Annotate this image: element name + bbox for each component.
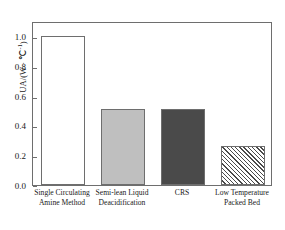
x-tick-label-line2: Deacidification <box>86 198 158 208</box>
y-tick-label: 0.8 <box>15 62 26 72</box>
y-tick-mark <box>33 127 37 128</box>
x-tick-label-line1: CRS <box>175 188 189 197</box>
y-tick-label: 1.0 <box>15 32 26 42</box>
x-tick-label: Low TemperaturePacked Bed <box>206 188 278 207</box>
x-tick-label-line1: Low Temperature <box>215 188 269 197</box>
bar-chart-figure: UA/(W · ℃-1) 0.00.20.40.60.81.0 Single C… <box>0 0 285 230</box>
bar-series <box>33 23 271 185</box>
y-tick-label: 0.0 <box>15 181 26 191</box>
x-axis-tick-labels: Single CirculatingAmine MethodSemi-lean … <box>32 188 272 228</box>
y-tick-label: 0.4 <box>15 121 26 131</box>
x-tick-label-line2: Packed Bed <box>206 198 278 208</box>
bar <box>101 109 145 185</box>
y-axis-tick-labels: 0.00.20.40.60.81.0 <box>0 22 30 186</box>
bar <box>161 109 205 185</box>
y-tick-mark <box>33 38 37 39</box>
y-tick-label: 0.2 <box>15 151 26 161</box>
y-tick-mark <box>33 98 37 99</box>
y-tick-mark <box>33 68 37 69</box>
x-tick-label-line1: Semi-lean Liquid <box>96 188 149 197</box>
y-tick-mark <box>33 186 37 187</box>
plot-area <box>32 22 272 186</box>
y-tick-label: 0.6 <box>15 92 26 102</box>
bar <box>41 36 85 185</box>
bar <box>221 146 265 185</box>
x-tick-label-line1: Single Circulating <box>34 188 89 197</box>
y-tick-mark <box>33 157 37 158</box>
